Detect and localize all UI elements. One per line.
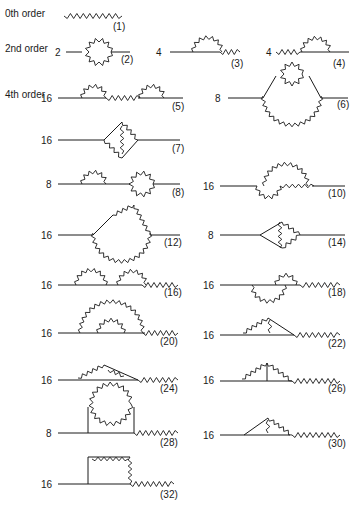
diagram-24: 16(24) <box>41 365 178 394</box>
diagram-weight: 16 <box>203 181 215 192</box>
diagram-tag: (30) <box>328 438 346 449</box>
diagram-tag: (12) <box>164 237 182 248</box>
diagram-weight: 16 <box>41 135 53 146</box>
diagram-tag: (6) <box>337 99 349 110</box>
diagram-weight: 4 <box>266 47 272 58</box>
diagram-tag: (10) <box>328 188 346 199</box>
order-label: 0th order <box>5 8 46 19</box>
diagram-weight: 16 <box>203 280 215 291</box>
diagram-30: 16(30) <box>203 418 346 449</box>
diagram-tag: (26) <box>328 383 346 394</box>
diagram-18: 16(18) <box>203 273 346 303</box>
diagram-8: 8(8) <box>46 170 184 198</box>
diagram-tag: (24) <box>160 383 178 394</box>
diagram-weight: 2 <box>55 47 61 58</box>
diagram-3: 4(3) <box>156 36 243 69</box>
diagram-weight: 16 <box>41 375 53 386</box>
diagram-tag: (4) <box>333 58 345 69</box>
diagram-tag: (14) <box>328 237 346 248</box>
diagram-tag: (7) <box>172 143 184 154</box>
diagram-weight: 4 <box>156 47 162 58</box>
diagram-weight: 16 <box>41 93 53 104</box>
diagram-tag: (16) <box>164 287 182 298</box>
diagram-weight: 16 <box>41 479 53 490</box>
diagram-tag: (1) <box>113 21 125 32</box>
diagram-tag: (2) <box>121 54 133 65</box>
diagram-weight: 16 <box>203 430 215 441</box>
diagram-weight: 8 <box>46 179 52 190</box>
diagram-tag: (18) <box>328 287 346 298</box>
diagram-4: 4(4) <box>266 36 349 69</box>
diagram-weight: 16 <box>203 375 215 386</box>
diagram-1: (1) <box>64 14 125 33</box>
diagram-weight: 16 <box>203 330 215 341</box>
diagram-2: 2(2) <box>55 38 133 65</box>
order-label: 4th order <box>5 89 46 100</box>
diagram-tag: (20) <box>160 336 178 347</box>
diagram-5: 16(5) <box>41 84 184 112</box>
order-label: 2nd order <box>5 43 48 54</box>
diagram-7: 16(7) <box>41 122 184 158</box>
diagram-6: 8(6) <box>215 62 349 127</box>
diagram-tag: (5) <box>172 101 184 112</box>
diagram-26: 16(26) <box>203 363 346 394</box>
diagram-tag: (32) <box>160 489 178 500</box>
diagram-22: 16(22) <box>203 318 346 349</box>
diagram-weight: 8 <box>46 428 52 439</box>
diagram-10: 16(10) <box>203 162 346 199</box>
diagram-weight: 16 <box>41 328 53 339</box>
diagram-weight: 8 <box>215 93 221 104</box>
diagram-16: 16(16) <box>41 269 182 298</box>
diagram-32: 16(32) <box>41 457 178 500</box>
diagram-20: 16(20) <box>41 300 178 347</box>
diagram-14: 8(14) <box>208 222 346 248</box>
diagram-tag: (22) <box>328 338 346 349</box>
diagram-tag: (3) <box>231 58 243 69</box>
diagram-weight: 8 <box>208 230 214 241</box>
feynman-diagram-figure: 0th order2nd order4th order (1)2(2)4(3)4… <box>0 0 355 507</box>
diagram-weight: 16 <box>41 280 53 291</box>
diagram-28: 8(28) <box>46 382 178 448</box>
diagram-tag: (8) <box>172 187 184 198</box>
diagram-weight: 16 <box>41 230 53 241</box>
diagram-tag: (28) <box>160 437 178 448</box>
diagram-12: 16(12) <box>41 205 182 263</box>
